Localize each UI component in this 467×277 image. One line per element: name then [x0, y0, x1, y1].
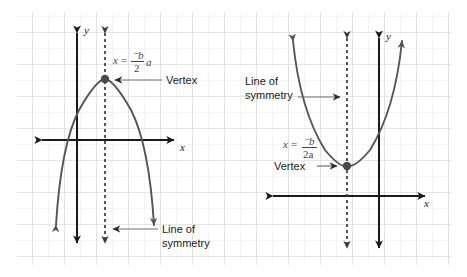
- right-symmetry-label-line1: Line of: [245, 75, 279, 87]
- right-x-axis-label: x: [423, 197, 429, 209]
- left-vertex-point: [101, 75, 109, 83]
- right-formula-lhs: x: [282, 138, 288, 150]
- right-formula-numerator: ⁻b: [303, 135, 315, 147]
- right-vertex-label: Vertex: [274, 160, 306, 172]
- parabola-figure: y x Vertex x =: [0, 0, 467, 277]
- figure-canvas: y x Vertex x =: [0, 0, 467, 277]
- left-vertex-label: Vertex: [166, 74, 198, 86]
- left-formula-trailing: a: [146, 56, 152, 68]
- right-formula-denominator: 2a: [303, 148, 314, 160]
- left-symmetry-label-line2: symmetry: [162, 237, 210, 249]
- left-x-axis-label: x: [179, 141, 185, 153]
- right-formula-equals: =: [291, 138, 297, 150]
- left-y-axis-label: y: [83, 24, 89, 36]
- right-vertex-point: [343, 162, 351, 170]
- right-symmetry-label-line2: symmetry: [245, 89, 293, 101]
- grid-background: [17, 12, 451, 265]
- right-y-axis-label: y: [385, 30, 391, 42]
- left-formula-denominator: 2: [134, 62, 140, 74]
- left-formula-numerator: ⁻b: [132, 49, 144, 61]
- left-formula-equals: =: [121, 54, 127, 66]
- left-symmetry-label-line1: Line of: [162, 223, 196, 235]
- left-formula-lhs: x: [112, 54, 118, 66]
